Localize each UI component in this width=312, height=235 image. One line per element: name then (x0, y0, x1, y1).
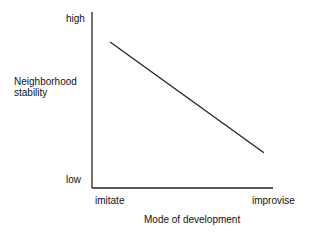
y-axis-title-line2: stability (14, 87, 77, 98)
y-tick-high: high (66, 13, 85, 24)
y-tick-low: low (66, 174, 81, 185)
x-axis-title: Mode of development (144, 214, 240, 225)
series-layer (110, 42, 264, 153)
x-tick-improvise: improvise (252, 195, 295, 206)
y-axis-title-line1: Neighborhood (14, 76, 77, 87)
series-line-relationship (110, 42, 264, 153)
x-tick-imitate: imitate (95, 195, 124, 206)
y-axis-title: Neighborhood stability (14, 76, 77, 98)
